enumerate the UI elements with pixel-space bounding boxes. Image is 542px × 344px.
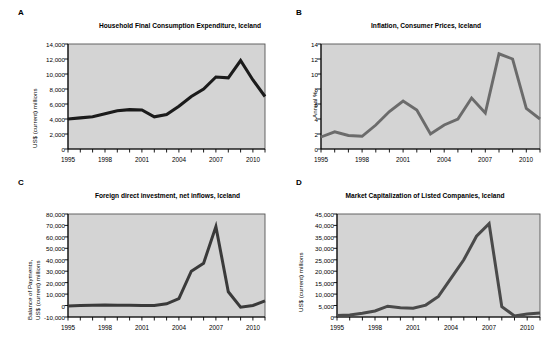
panel-a-plot-background xyxy=(68,44,265,149)
panel-c-plot-inner xyxy=(0,172,271,344)
panel-a: A Household Final Consumption Expenditur… xyxy=(0,0,271,172)
panel-b-plot xyxy=(271,0,542,172)
panel-a-plot xyxy=(0,0,271,172)
panel-d: D Market Capitalization of Listed Compan… xyxy=(271,172,542,344)
figure-four-panel-iceland-indicators: A Household Final Consumption Expenditur… xyxy=(0,0,542,344)
panel-b: B Inflation, Consumer Prices, Iceland An… xyxy=(271,0,542,172)
panel-c: C Foreign direct investment, net inflows… xyxy=(0,172,271,344)
panel-d-plot xyxy=(271,172,542,344)
panel-d-plot-background xyxy=(337,214,540,317)
